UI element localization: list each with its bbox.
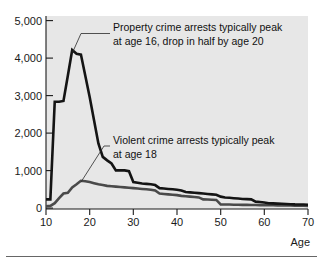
violent-annotation-line2: at age 18 — [113, 148, 157, 160]
y-tick-label-4000: 4,000 — [14, 52, 42, 64]
y-tick-label-2000: 2,000 — [14, 127, 42, 139]
y-tick-label-3000: 3,000 — [14, 90, 42, 102]
x-tick-label-50: 50 — [215, 216, 227, 228]
y-tick-label-5000: 5,000 — [14, 15, 42, 27]
crime-arrests-by-age-figure: 5,000 4,000 3,000 2,000 1,000 0 10 20 30… — [0, 0, 323, 263]
x-tick-label-30: 30 — [127, 216, 139, 228]
y-tick-label-1000: 1,000 — [14, 165, 42, 177]
x-tick-label-60: 60 — [258, 216, 270, 228]
y-tick-label-0: 0 — [36, 202, 42, 214]
chart-canvas: 5,000 4,000 3,000 2,000 1,000 0 10 20 30… — [0, 0, 323, 263]
x-tick-label-40: 40 — [171, 216, 183, 228]
property-annotation-line2: at age 16, drop in half by age 20 — [113, 35, 264, 47]
property-annotation-line1: Property crime arrests typically peak — [113, 21, 283, 33]
x-tick-label-70: 70 — [302, 216, 314, 228]
x-axis-title: Age — [290, 236, 310, 248]
violent-annotation-line1: Violent crime arrests typically peak — [113, 134, 275, 146]
x-tick-label-10: 10 — [40, 216, 52, 228]
x-tick-label-20: 20 — [84, 216, 96, 228]
